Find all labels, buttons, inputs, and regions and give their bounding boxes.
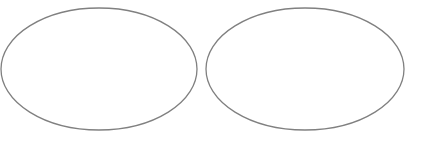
diagram-svg <box>0 0 421 143</box>
right-ellipse <box>206 8 404 130</box>
diagram-canvas <box>0 0 421 143</box>
left-ellipse <box>1 8 197 130</box>
